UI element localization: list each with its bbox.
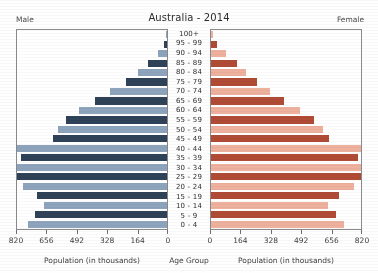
- male-x-axis: 8206564923281640: [16, 230, 168, 248]
- bar-row: [17, 106, 167, 115]
- axis-tick-label: 0: [208, 236, 213, 245]
- bar-female-35-39: [211, 154, 358, 161]
- bar-row: [211, 49, 361, 58]
- bar-female-0-4: [211, 221, 344, 228]
- bar-row: [211, 134, 361, 143]
- bar-male-10-14: [44, 202, 167, 209]
- bar-female-85-89: [211, 60, 237, 67]
- age-group-label: 25 - 29: [168, 173, 210, 183]
- bar-male-100+: [166, 31, 167, 38]
- age-group-label: 5 - 9: [168, 211, 210, 221]
- bar-female-100+: [211, 31, 213, 38]
- age-group-label: 45 - 49: [168, 134, 210, 144]
- bar-male-65-69: [95, 97, 167, 104]
- bar-row: [17, 30, 167, 39]
- bar-row: [211, 39, 361, 48]
- bar-row: [17, 58, 167, 67]
- male-plot-panel: [16, 29, 168, 230]
- bar-row: [211, 77, 361, 86]
- bar-male-55-59: [66, 116, 167, 123]
- axis-tick: [138, 230, 139, 234]
- age-group-label: 55 - 59: [168, 115, 210, 125]
- bar-male-75-79: [126, 78, 167, 85]
- axis-tick-label: 820: [9, 236, 23, 245]
- bar-row: [211, 144, 361, 153]
- axis-tick: [107, 230, 108, 234]
- bar-female-10-14: [211, 202, 328, 209]
- bar-row: [211, 182, 361, 191]
- bar-row: [17, 172, 167, 181]
- bar-female-50-54: [211, 126, 323, 133]
- bar-row: [17, 153, 167, 162]
- age-group-label: 50 - 54: [168, 125, 210, 135]
- axis-tick-label: 492: [294, 236, 308, 245]
- bar-female-30-34: [211, 164, 361, 171]
- bar-female-75-79: [211, 78, 257, 85]
- bar-female-55-59: [211, 116, 314, 123]
- bar-row: [211, 68, 361, 77]
- male-axis-caption: Population (in thousands): [44, 256, 140, 265]
- bar-female-20-24: [211, 183, 354, 190]
- age-group-label: 15 - 19: [168, 192, 210, 202]
- axis-tick-label: 656: [324, 236, 338, 245]
- axis-tick-label: 492: [70, 236, 84, 245]
- axis-tick: [361, 230, 362, 234]
- bar-row: [211, 172, 361, 181]
- axis-tick-label: 164: [233, 236, 247, 245]
- bar-row: [211, 96, 361, 105]
- female-bar-rows: [211, 30, 361, 229]
- bar-row: [17, 134, 167, 143]
- bar-male-95-99: [164, 41, 167, 48]
- age-group-label: 70 - 74: [168, 86, 210, 96]
- female-legend-label: Female: [337, 15, 364, 24]
- bar-row: [211, 87, 361, 96]
- axis-tick: [271, 230, 272, 234]
- bar-row: [17, 219, 167, 228]
- bar-row: [17, 125, 167, 134]
- age-group-label: 0 - 4: [168, 221, 210, 231]
- age-group-label: 90 - 94: [168, 48, 210, 58]
- female-plot-panel: [210, 29, 362, 230]
- axis-tick: [167, 230, 168, 234]
- bar-male-40-44: [17, 145, 167, 152]
- bar-female-25-29: [211, 173, 361, 180]
- bar-row: [17, 200, 167, 209]
- bar-row: [211, 210, 361, 219]
- bar-male-85-89: [148, 60, 167, 67]
- axis-tick: [210, 230, 211, 234]
- chart-title: Australia - 2014: [0, 12, 378, 23]
- bar-row: [211, 191, 361, 200]
- age-group-label: 35 - 39: [168, 154, 210, 164]
- axis-tick: [46, 230, 47, 234]
- axis-tick-label: 820: [355, 236, 369, 245]
- bar-row: [211, 115, 361, 124]
- axis-tick-label: 328: [100, 236, 114, 245]
- age-group-label: 20 - 24: [168, 182, 210, 192]
- population-pyramid-chart: Male Australia - 2014 Female 100+95 - 99…: [0, 0, 378, 273]
- age-group-label: 75 - 79: [168, 77, 210, 87]
- bar-row: [17, 210, 167, 219]
- bar-row: [17, 39, 167, 48]
- bar-row: [17, 163, 167, 172]
- bar-row: [211, 106, 361, 115]
- bar-female-95-99: [211, 41, 217, 48]
- axis-tick: [301, 230, 302, 234]
- age-group-label: 10 - 14: [168, 201, 210, 211]
- bar-male-25-29: [17, 173, 167, 180]
- bar-male-15-19: [37, 192, 167, 199]
- bar-female-70-74: [211, 88, 270, 95]
- bar-row: [211, 58, 361, 67]
- bar-female-45-49: [211, 135, 329, 142]
- age-group-label: 100+: [168, 29, 210, 39]
- bar-male-30-34: [17, 164, 167, 171]
- bar-female-5-9: [211, 211, 336, 218]
- bar-female-80-84: [211, 69, 246, 76]
- bar-female-60-64: [211, 107, 300, 114]
- age-group-label: 60 - 64: [168, 106, 210, 116]
- bar-male-90-94: [158, 50, 167, 57]
- bar-female-15-19: [211, 192, 339, 199]
- bar-female-40-44: [211, 145, 361, 152]
- bar-row: [17, 115, 167, 124]
- bar-male-70-74: [110, 88, 167, 95]
- bar-row: [211, 163, 361, 172]
